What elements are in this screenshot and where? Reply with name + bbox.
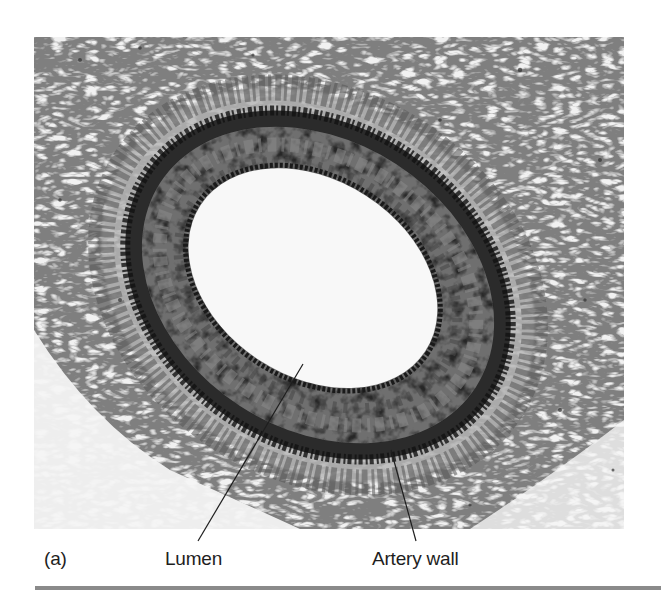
lumen-label: Lumen [165, 549, 222, 568]
artery-wall-label: Artery wall [372, 549, 458, 568]
figure-panel: (a) Lumen Artery wall [0, 0, 661, 606]
bottom-divider-rule [35, 586, 661, 590]
panel-label: (a) [44, 549, 67, 568]
artery-micrograph [34, 37, 624, 529]
